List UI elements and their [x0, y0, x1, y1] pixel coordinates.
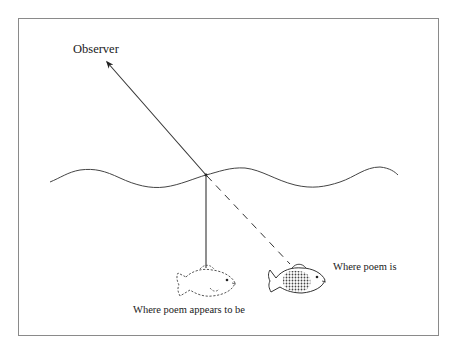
ray-to-observer	[107, 62, 206, 175]
actual-ray-dashed	[207, 176, 290, 264]
apparent-position-label: Where poem appears to be	[133, 304, 245, 315]
apparent-fish-icon	[177, 265, 236, 296]
actual-fish-icon	[269, 264, 327, 293]
observer-label: Observer	[73, 42, 120, 56]
diagram-frame	[19, 19, 439, 336]
water-surface-wave	[50, 167, 398, 188]
actual-position-label: Where poem is	[333, 261, 397, 272]
refraction-diagram: Observer Where poem is Where poem appear…	[0, 0, 455, 352]
